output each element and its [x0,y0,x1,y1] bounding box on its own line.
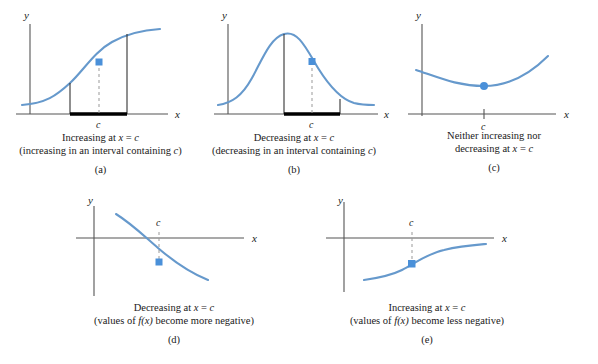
caption-text: Neither increasing nor [447,130,541,141]
caption-text: Increasing at [62,132,119,143]
panel-c-letter: (c) [396,162,592,173]
panel-c-caption: Neither increasing nor decreasing at x =… [396,130,592,155]
caption-text-3: become less negative) [409,315,504,326]
panel-d-letter: (d) [58,334,290,345]
panel-d: y x c Decreasing at x = c (values of f(x… [58,196,290,362]
panel-e-plot: y x c [308,196,546,304]
function-curve [416,56,548,86]
panel-e-caption: Increasing at x = c (values of f(x) beco… [308,302,546,327]
panel-a: y x c Increasing at x = c (increasing in… [8,4,193,180]
y-axis-label: y [87,196,93,206]
panel-a-caption: Increasing at x = c (increasing in an in… [8,132,193,157]
panel-c-plot: y x c [396,4,592,134]
function-curve [364,244,486,280]
caption-text: Decreasing at [254,132,314,143]
panel-b-letter: (b) [196,164,392,175]
caption-close-paren: ) [178,145,182,156]
caption-var-c: c [461,302,466,313]
caption-close-paren: ) [373,145,377,156]
x-axis-label: x [174,108,180,120]
panel-b-plot: y x c [196,4,392,134]
y-axis-label: y [337,196,343,206]
caption-var-c: c [330,132,335,143]
calculus-increasing-decreasing-figure: y x c Increasing at x = c (increasing in… [0,0,598,364]
point-marker [156,259,163,266]
panel-b-caption: Decreasing at x = c (decreasing in an in… [196,132,392,157]
caption-var-c: c [134,132,139,143]
panel-d-plot: y x c [58,196,290,304]
x-axis-label: x [383,108,389,120]
c-label: c [409,217,414,228]
caption-func-arg: (x) [141,315,153,326]
panel-e-letter: (e) [308,334,546,345]
point-marker [408,260,416,268]
x-axis-label: x [251,232,257,244]
panel-d-caption: Decreasing at x = c (values of f(x) beco… [58,302,290,327]
caption-text-2: (values of [94,315,138,326]
caption-text-2: (increasing in an interval containing [19,145,173,156]
panel-a-letter: (a) [8,164,193,175]
point-marker [480,82,488,90]
caption-text-2: (values of [350,315,394,326]
function-curve [22,29,160,105]
caption-equals: = [450,302,461,313]
caption-equals: = [198,302,209,313]
c-label: c [96,119,101,130]
y-axis-label: y [415,9,421,21]
function-curve [218,33,374,105]
caption-var-c: c [528,143,533,154]
panel-b: y x c Decreasing at x = c (decreasing in… [196,4,392,180]
caption-text-3: become more negative) [153,315,254,326]
x-axis-label: x [501,232,507,244]
caption-text: Decreasing at [134,302,194,313]
caption-var-c: c [210,302,215,313]
caption-equals: = [123,132,134,143]
caption-text-2: (decreasing in an interval containing [212,145,368,156]
point-marker [96,59,103,66]
caption-func-arg: (x) [397,315,409,326]
panel-c: y x c Neither increasing nor decreasing … [396,4,592,180]
point-marker [309,58,316,65]
y-axis-label: y [221,9,227,21]
caption-text: Increasing at [388,302,445,313]
panel-a-plot: y x c [8,4,193,134]
caption-equals: = [318,132,329,143]
c-label: c [309,119,314,130]
x-axis-label: x [563,108,569,120]
y-axis-label: y [23,9,29,21]
c-label: c [156,217,161,228]
caption-text-2: decreasing at [455,143,513,154]
function-curve [116,214,208,280]
panel-e: y x c Increasing at x = c (values of f(x… [308,196,546,362]
caption-equals: = [517,143,528,154]
